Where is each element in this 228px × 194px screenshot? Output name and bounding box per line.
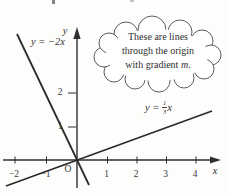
x-tick-label: −1 [40,170,50,180]
callout-line2: through the origin [102,44,214,58]
cloud-callout: These are lines through the origin with … [102,30,214,72]
callout-line3-text: with gradient [125,59,181,70]
y-axis-label: y [63,26,68,37]
shallow-eq-prefix: y = [145,102,162,113]
callout-line3: with gradient m. [102,58,214,72]
x-tick-label: −2 [9,170,19,180]
origin-label: O [65,165,72,175]
figure-canvas: These are lines through the origin with … [0,0,228,194]
y-tick-label: 1 [58,122,63,132]
x-tick-label: 1 [104,170,109,180]
x-tick-label: 4 [193,170,198,180]
x-axis-label: x [213,166,218,177]
y-axis-arrowhead [73,27,80,39]
y-tick-label: 2 [58,88,63,98]
x-axis-arrowhead [210,156,221,163]
y-tick-marks [68,93,76,127]
steep-line-equation: y = −2x [31,37,65,48]
line-y-equals-minus-2x [17,34,89,185]
shallow-line-equation: y = 13x [145,100,172,115]
shallow-eq-suffix: x [167,102,172,113]
x-tick-label: 3 [163,170,168,180]
callout-line1: These are lines [102,30,214,44]
callout-line3-period: . [188,59,191,70]
x-tick-label: 2 [134,170,139,180]
